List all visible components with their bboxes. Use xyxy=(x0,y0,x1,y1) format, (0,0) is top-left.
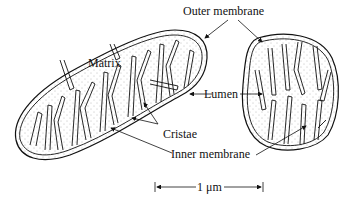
label-cristae: Cristae xyxy=(163,128,197,140)
mitochondria-diagram xyxy=(0,0,359,211)
label-lumen: Lumen xyxy=(204,88,238,100)
right-mitochondrion xyxy=(242,34,338,150)
label-inner-membrane: Inner membrane xyxy=(171,148,250,160)
label-scale-bar: 1 μm xyxy=(197,181,222,193)
label-outer-membrane: Outer membrane xyxy=(183,5,264,17)
label-matrix: Matrix xyxy=(88,57,121,69)
